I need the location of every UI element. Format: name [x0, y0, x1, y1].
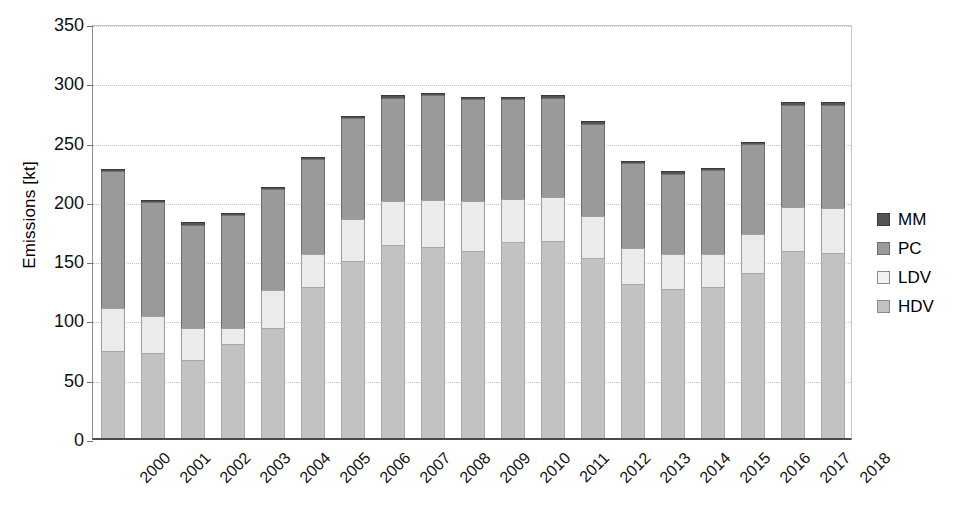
bar-stack[interactable]: [461, 97, 486, 438]
legend-item-hdv[interactable]: HDV: [877, 292, 934, 321]
bar-segment-ldv[interactable]: [701, 254, 726, 287]
bar-stack[interactable]: [741, 142, 766, 438]
bar-segment-hdv[interactable]: [541, 241, 566, 438]
bar-stack[interactable]: [541, 95, 566, 438]
bar-stack[interactable]: [181, 222, 206, 438]
x-axis-tick-label: 2002: [216, 449, 254, 487]
x-axis-tick-label: 2000: [136, 449, 174, 487]
bar-segment-pc[interactable]: [781, 105, 806, 207]
bar-segment-hdv[interactable]: [261, 328, 286, 438]
x-axis-tick-label: 2006: [376, 449, 414, 487]
bar-segment-ldv[interactable]: [301, 254, 326, 287]
bar-segment-ldv[interactable]: [261, 290, 286, 328]
bar-segment-ldv[interactable]: [541, 197, 566, 241]
bar-stack[interactable]: [581, 121, 606, 438]
bar-segment-ldv[interactable]: [421, 200, 446, 247]
x-axis-tick-label: 2014: [696, 449, 734, 487]
bar-stack[interactable]: [661, 171, 686, 438]
bar-segment-hdv[interactable]: [621, 284, 646, 438]
bar-segment-pc[interactable]: [821, 105, 846, 208]
bar-segment-hdv[interactable]: [341, 261, 366, 438]
bar-segment-ldv[interactable]: [501, 199, 526, 243]
bar-stack[interactable]: [381, 95, 406, 438]
x-axis-tick-label: 2012: [616, 449, 654, 487]
bar-segment-hdv[interactable]: [221, 344, 246, 438]
bar-segment-hdv[interactable]: [381, 245, 406, 438]
bar-stack[interactable]: [701, 168, 726, 438]
bar-segment-pc[interactable]: [101, 171, 126, 307]
bar-segment-pc[interactable]: [341, 118, 366, 219]
bar-segment-ldv[interactable]: [141, 316, 166, 353]
bar-segment-pc[interactable]: [181, 225, 206, 328]
bar-segment-hdv[interactable]: [141, 353, 166, 438]
bar-segment-ldv[interactable]: [181, 328, 206, 360]
legend-item-ldv[interactable]: LDV: [877, 263, 934, 292]
bar-segment-ldv[interactable]: [341, 219, 366, 262]
bar-segment-pc[interactable]: [661, 174, 686, 255]
bar-segment-pc[interactable]: [221, 215, 246, 328]
bar-segment-hdv[interactable]: [101, 351, 126, 438]
bar-stack[interactable]: [821, 102, 846, 438]
bar-segment-ldv[interactable]: [221, 328, 246, 345]
bar-segment-hdv[interactable]: [661, 289, 686, 438]
bar-stack[interactable]: [781, 102, 806, 438]
bar-segment-hdv[interactable]: [741, 273, 766, 438]
legend-item-mm[interactable]: MM: [877, 205, 934, 234]
bar-segment-ldv[interactable]: [581, 216, 606, 258]
bar-segment-ldv[interactable]: [381, 201, 406, 245]
bar-segment-hdv[interactable]: [701, 287, 726, 438]
bar-segment-hdv[interactable]: [461, 251, 486, 438]
x-axis-tick-label: 2011: [576, 449, 613, 486]
bar-segment-pc[interactable]: [461, 99, 486, 201]
bar-stack[interactable]: [421, 93, 446, 438]
bar-segment-hdv[interactable]: [501, 242, 526, 438]
bar-segment-ldv[interactable]: [661, 254, 686, 288]
y-axis-tick-labels: 050100150200250300350: [38, 0, 84, 518]
bar-segment-pc[interactable]: [301, 159, 326, 254]
bar-stack[interactable]: [341, 116, 366, 438]
y-axis-title: Emissions [kt]: [20, 125, 40, 305]
bar-segment-pc[interactable]: [381, 98, 406, 201]
bar-segment-pc[interactable]: [741, 144, 766, 234]
legend-swatch-ldv: [877, 271, 890, 284]
bar-segment-hdv[interactable]: [301, 287, 326, 438]
bar-segment-pc[interactable]: [621, 163, 646, 248]
x-axis-tick-label: 2003: [256, 449, 294, 487]
bar-segment-pc[interactable]: [421, 95, 446, 199]
bar-stack[interactable]: [621, 161, 646, 438]
legend-label: MM: [898, 211, 926, 228]
bar-segment-ldv[interactable]: [621, 248, 646, 284]
bar-segment-pc[interactable]: [141, 202, 166, 316]
bar-segment-ldv[interactable]: [781, 207, 806, 251]
bar-stack[interactable]: [101, 169, 126, 438]
x-axis-tick-label: 2001: [176, 449, 214, 487]
bar-segment-hdv[interactable]: [821, 253, 846, 438]
y-axis-tickmark: [87, 441, 93, 442]
bar-segment-ldv[interactable]: [821, 208, 846, 253]
bar-stack[interactable]: [301, 157, 326, 438]
bar-segment-ldv[interactable]: [461, 201, 486, 251]
y-axis-tick-label: 250: [38, 135, 84, 153]
y-axis-tick-label: 200: [38, 194, 84, 212]
bar-stack[interactable]: [141, 200, 166, 438]
bar-segment-ldv[interactable]: [741, 234, 766, 273]
y-axis-tick-label: 50: [38, 372, 84, 390]
bar-segment-pc[interactable]: [701, 170, 726, 254]
bar-stack[interactable]: [501, 97, 526, 438]
bar-segment-hdv[interactable]: [421, 247, 446, 438]
y-axis-tick-label: 300: [38, 75, 84, 93]
bar-segment-hdv[interactable]: [181, 360, 206, 438]
bar-stack[interactable]: [221, 213, 246, 438]
bar-series-group: [93, 26, 851, 438]
bar-segment-hdv[interactable]: [581, 258, 606, 438]
x-axis-tick-label: 2017: [816, 449, 854, 487]
bar-stack[interactable]: [261, 187, 286, 438]
bar-segment-hdv[interactable]: [781, 251, 806, 438]
bar-segment-pc[interactable]: [501, 99, 526, 199]
bar-segment-pc[interactable]: [581, 124, 606, 216]
legend-swatch-pc: [877, 242, 890, 255]
bar-segment-ldv[interactable]: [101, 308, 126, 352]
bar-segment-pc[interactable]: [541, 98, 566, 198]
legend-item-pc[interactable]: PC: [877, 234, 934, 263]
bar-segment-pc[interactable]: [261, 189, 286, 290]
